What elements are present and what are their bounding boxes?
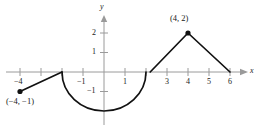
- peak-dot: [185, 30, 190, 35]
- annotation-endpoint-left: (−4, −1): [6, 97, 34, 106]
- x-tick-label-minus1: −1: [77, 78, 86, 86]
- annotation-peak: (4, 2): [170, 14, 188, 23]
- endpoint-left-dot: [17, 89, 22, 94]
- axes-group: [6, 15, 248, 125]
- curve-segment-falling: [188, 33, 230, 72]
- graph-figure: −4 −1 1 3 4 5 6 2 1 −1 x y (−4, −1) (4, …: [0, 0, 259, 131]
- x-tick-label-4: 4: [186, 78, 190, 86]
- x-axis-label: x: [250, 67, 254, 75]
- graph-canvas: [0, 0, 259, 131]
- curve-segment-rising: [150, 33, 188, 72]
- y-tick-label-1: 1: [92, 48, 96, 56]
- x-tick-label-6: 6: [228, 78, 232, 86]
- y-tick-label-2: 2: [92, 29, 96, 37]
- y-tick-label-minus1: −1: [87, 87, 96, 95]
- y-axis-arrow-icon: [101, 15, 107, 22]
- x-tick-label-1: 1: [123, 78, 127, 86]
- x-tick-label-5: 5: [207, 78, 211, 86]
- x-tick-label-3: 3: [165, 78, 169, 86]
- y-axis-label: y: [100, 3, 104, 11]
- x-axis-arrow-icon: [240, 69, 248, 75]
- x-tick-label-minus4: −4: [14, 78, 23, 86]
